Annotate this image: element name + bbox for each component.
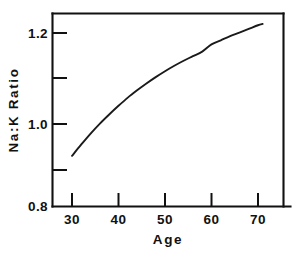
x-axis-title: Age <box>153 232 183 247</box>
na-k-ratio-curve <box>72 24 263 156</box>
y-tick-label-1-0: 1.0 <box>28 117 48 132</box>
cropped-caption-artifact <box>6 254 290 261</box>
x-tick-label-40: 40 <box>111 212 127 227</box>
y-axis-title: Na:K Ratio <box>6 67 21 152</box>
y-axis-ticks <box>53 33 68 170</box>
x-tick-label-30: 30 <box>64 212 80 227</box>
figure-container: 1.2 1.0 0.8 30 40 50 60 70 Age Na:K Rati… <box>0 0 296 261</box>
plot-frame <box>53 14 291 207</box>
x-axis-tick-labels: 30 40 50 60 70 <box>64 212 266 227</box>
x-tick-label-60: 60 <box>204 212 220 227</box>
x-tick-label-70: 70 <box>250 212 266 227</box>
y-tick-label-1-2: 1.2 <box>28 26 48 41</box>
x-tick-label-50: 50 <box>157 212 173 227</box>
y-axis-tick-labels: 1.2 1.0 0.8 <box>28 26 48 214</box>
na-k-ratio-vs-age-chart: 1.2 1.0 0.8 30 40 50 60 70 Age Na:K Rati… <box>0 0 296 261</box>
x-axis-ticks <box>72 193 258 207</box>
y-tick-label-0-8: 0.8 <box>28 199 48 214</box>
